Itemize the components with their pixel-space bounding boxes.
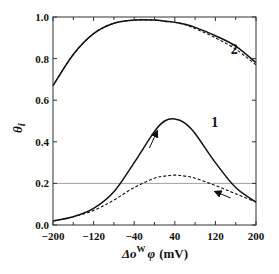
arrow-icon bbox=[215, 192, 230, 198]
y-tick-label: 0.2 bbox=[35, 177, 49, 189]
x-tick-label: 200 bbox=[248, 230, 265, 242]
plot-frame bbox=[53, 17, 256, 225]
y-axis-title: θi bbox=[10, 122, 27, 133]
x-tick-label: 40 bbox=[169, 230, 181, 242]
y-tick-label: 0.8 bbox=[35, 53, 49, 65]
curve-label: 1 bbox=[211, 115, 218, 130]
x-tick-label: −40 bbox=[126, 230, 144, 242]
y-tick-label: 0.4 bbox=[35, 136, 49, 148]
chart: −200−120−4040120200 0.00.20.40.60.81.0 1… bbox=[0, 0, 279, 274]
y-tick-label: 0.6 bbox=[35, 94, 49, 106]
series-line-3 bbox=[53, 20, 256, 86]
x-axis-title: ΔoWφ(mV) bbox=[121, 244, 188, 261]
series-line-2 bbox=[53, 20, 256, 86]
curve-label: 2 bbox=[231, 42, 238, 57]
x-tick-label: −200 bbox=[42, 230, 65, 242]
x-tick-label: −120 bbox=[82, 230, 105, 242]
series-line-1 bbox=[53, 175, 256, 221]
y-tick-label: 1.0 bbox=[35, 11, 49, 23]
x-tick-label: 120 bbox=[207, 230, 224, 242]
data-series bbox=[53, 20, 256, 221]
y-tick-label: 0.0 bbox=[35, 219, 49, 231]
y-axis-ticks: 0.00.20.40.60.81.0 bbox=[35, 11, 256, 231]
series-line-0 bbox=[53, 119, 256, 221]
